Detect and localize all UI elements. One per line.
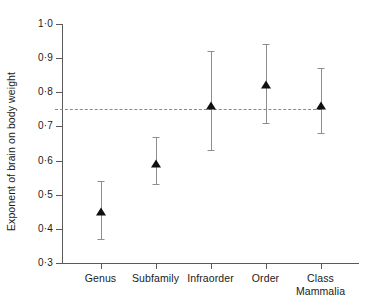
y-axis-tick-label: 0·8 bbox=[38, 87, 53, 97]
data-point-marker bbox=[261, 81, 271, 89]
error-bar-cap-upper bbox=[207, 51, 214, 52]
y-axis-tick bbox=[56, 126, 62, 127]
y-axis-tick-label: 0·4 bbox=[38, 224, 53, 234]
error-bar-cap-lower bbox=[317, 133, 324, 134]
y-axis-tick bbox=[56, 24, 62, 25]
error-bar-cap-upper bbox=[317, 68, 324, 69]
error-bar-cap-upper bbox=[97, 181, 104, 182]
reference-line bbox=[55, 109, 321, 110]
error-bar-cap-lower bbox=[262, 123, 269, 124]
y-axis-tick bbox=[56, 92, 62, 93]
y-axis-tick bbox=[56, 195, 62, 196]
error-bar-cap-lower bbox=[152, 184, 159, 185]
data-point-marker bbox=[96, 207, 106, 215]
error-bar-cap-upper bbox=[262, 44, 269, 45]
x-axis-tick-label: Genus bbox=[85, 272, 116, 285]
x-axis-tick-label: Infraorder bbox=[187, 272, 234, 285]
error-bar-cap-upper bbox=[152, 137, 159, 138]
y-axis-tick-label: 0·3 bbox=[38, 258, 53, 268]
error-bar-cap-lower bbox=[97, 239, 104, 240]
y-axis-tick bbox=[56, 229, 62, 230]
data-point-marker bbox=[206, 102, 216, 110]
y-axis-tick-label: 0·9 bbox=[38, 53, 53, 63]
y-axis-tick-label: 0·6 bbox=[38, 156, 53, 166]
y-axis-tick-label: 0·5 bbox=[38, 190, 53, 200]
y-axis-title: Exponent of brain on body weight bbox=[0, 0, 22, 303]
error-bar-cap-lower bbox=[207, 150, 214, 151]
x-axis-tick-label: Order bbox=[252, 272, 279, 285]
x-axis-tick-label: Class Mammalia bbox=[296, 272, 345, 297]
x-axis-tick bbox=[211, 263, 212, 269]
y-axis-tick bbox=[56, 161, 62, 162]
data-point-marker bbox=[316, 102, 326, 110]
data-point-marker bbox=[151, 160, 161, 168]
x-axis-tick-label: Subfamily bbox=[132, 272, 179, 285]
y-axis-tick-label: 1·0 bbox=[38, 19, 53, 29]
x-axis-tick bbox=[101, 263, 102, 269]
x-axis-tick bbox=[321, 263, 322, 269]
y-axis-tick bbox=[56, 58, 62, 59]
chart-figure: Exponent of brain on body weight 1·00·90… bbox=[0, 0, 392, 303]
x-axis-tick bbox=[266, 263, 267, 269]
x-axis-tick bbox=[156, 263, 157, 269]
y-axis-tick-label: 0·7 bbox=[38, 121, 53, 131]
y-axis-tick bbox=[56, 263, 62, 264]
y-axis-line bbox=[62, 24, 63, 264]
